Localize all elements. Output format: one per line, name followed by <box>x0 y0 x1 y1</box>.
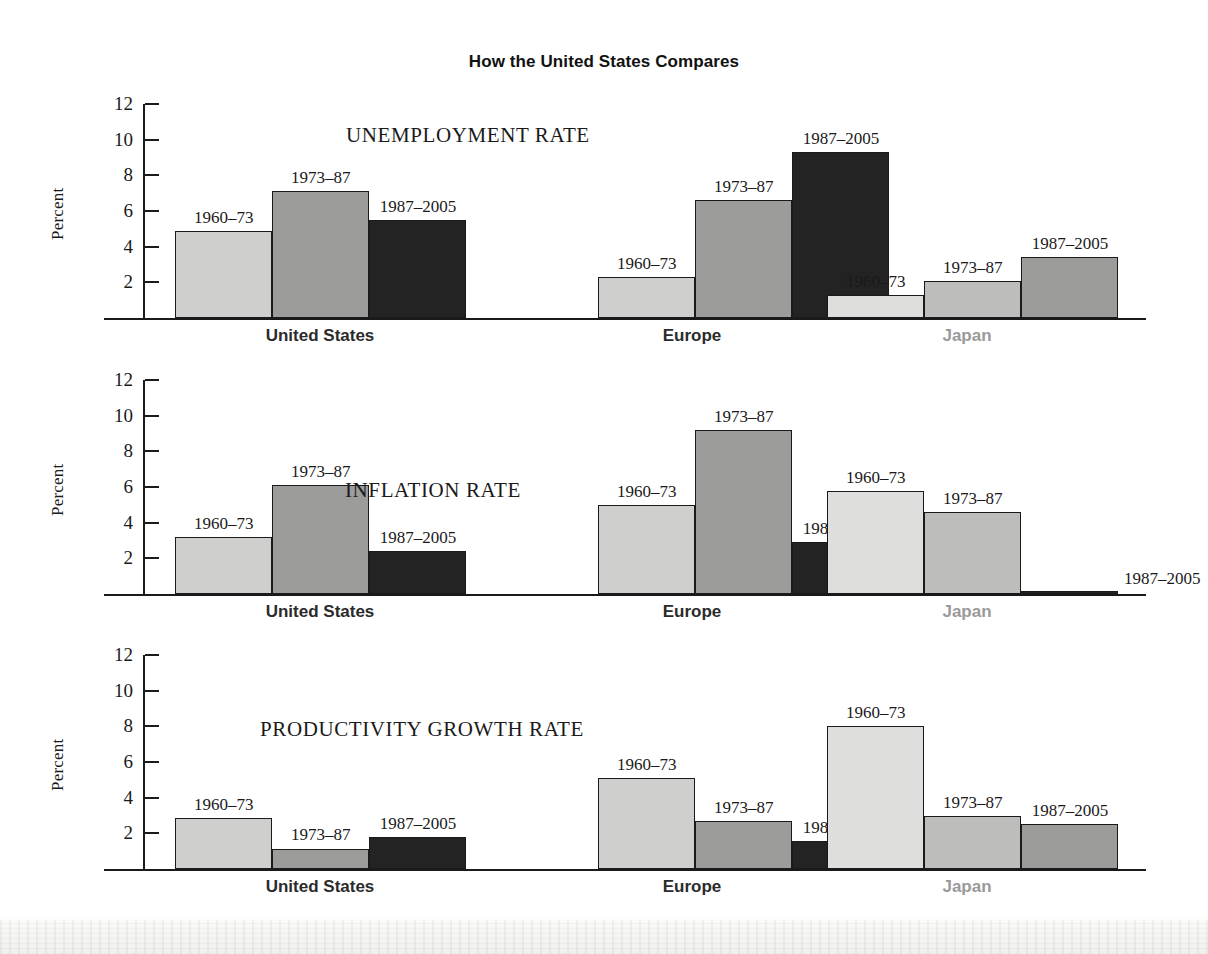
bar-label-unemployment-europe-1: 1973–87 <box>714 178 774 195</box>
bar-label-productivity-japan-0: 1960–73 <box>846 704 906 721</box>
bar-label-inflation-united-states-0: 1960–73 <box>194 515 254 532</box>
bar-label-inflation-europe-0: 1960–73 <box>617 483 677 500</box>
panel-unemployment: Percent 12108642 1960–731973–871987–2005… <box>0 90 1208 358</box>
group-label-europe: Europe <box>663 602 722 622</box>
bar-label-productivity-united-states-1: 1973–87 <box>291 826 351 843</box>
group-label-japan: Japan <box>942 602 991 622</box>
bar-productivity-europe-0 <box>598 778 695 869</box>
bar-unemployment-japan-1 <box>924 281 1021 318</box>
bar-inflation-europe-1 <box>695 430 792 594</box>
plot-area-unemployment: 1960–731973–871987–20051960–731973–87198… <box>0 90 1208 320</box>
bar-label-unemployment-united-states-0: 1960–73 <box>194 209 254 226</box>
panel-title-productivity: PRODUCTIVITY GROWTH RATE <box>260 717 584 742</box>
bar-inflation-europe-0 <box>598 505 695 594</box>
bar-label-unemployment-japan-1: 1973–87 <box>943 259 1003 276</box>
group-label-japan: Japan <box>942 326 991 346</box>
group-label-united-states: United States <box>266 877 375 897</box>
bar-inflation-japan-1 <box>924 512 1021 594</box>
bar-productivity-japan-1 <box>924 816 1021 870</box>
group-label-united-states: United States <box>266 326 375 346</box>
bar-label-inflation-europe-1: 1973–87 <box>714 408 774 425</box>
bar-label-unemployment-japan-0: 1960–73 <box>846 273 906 290</box>
bar-label-productivity-united-states-2: 1987–2005 <box>380 815 457 832</box>
bar-label-productivity-europe-0: 1960–73 <box>617 756 677 773</box>
plot-area-inflation: 1960–731973–871987–20051960–731973–87198… <box>0 366 1208 596</box>
figure-page: How the United States Compares Percent 1… <box>0 0 1208 954</box>
group-label-europe: Europe <box>663 326 722 346</box>
bar-inflation-united-states-0 <box>175 537 272 594</box>
bar-inflation-japan-0 <box>827 491 924 594</box>
bar-unemployment-japan-0 <box>827 295 924 318</box>
bar-productivity-japan-0 <box>827 726 924 869</box>
bar-unemployment-europe-2 <box>792 152 889 318</box>
bar-unemployment-united-states-0 <box>175 231 272 318</box>
figure-title: How the United States Compares <box>0 52 1208 72</box>
bar-productivity-united-states-1 <box>272 849 369 870</box>
panel-inflation: Percent 12108642 1960–731973–871987–2005… <box>0 366 1208 634</box>
bar-label-inflation-japan-0: 1960–73 <box>846 469 906 486</box>
bar-unemployment-united-states-2 <box>369 220 466 318</box>
scan-texture-speckle <box>0 920 1208 954</box>
bar-label-unemployment-japan-2: 1987–2005 <box>1032 235 1109 252</box>
bar-inflation-japan-2 <box>1021 591 1118 594</box>
bar-label-productivity-united-states-0: 1960–73 <box>194 796 254 813</box>
bar-label-inflation-japan-1: 1973–87 <box>943 490 1003 507</box>
bar-label-productivity-europe-1: 1973–87 <box>714 799 774 816</box>
bar-unemployment-japan-2 <box>1021 257 1118 318</box>
group-label-japan: Japan <box>942 877 991 897</box>
bar-unemployment-europe-0 <box>598 277 695 318</box>
bar-label-unemployment-united-states-1: 1973–87 <box>291 169 351 186</box>
bar-label-inflation-united-states-1: 1973–87 <box>291 463 351 480</box>
bar-label-productivity-japan-1: 1973–87 <box>943 794 1003 811</box>
panel-title-inflation: INFLATION RATE <box>345 478 521 503</box>
group-label-united-states: United States <box>266 602 375 622</box>
bar-unemployment-europe-1 <box>695 200 792 318</box>
bar-label-inflation-united-states-2: 1987–2005 <box>380 529 457 546</box>
group-label-europe: Europe <box>663 877 722 897</box>
bar-inflation-united-states-2 <box>369 551 466 594</box>
bar-label-unemployment-europe-0: 1960–73 <box>617 255 677 272</box>
panel-productivity: Percent 12108642 1960–731973–871987–2005… <box>0 641 1208 909</box>
bar-label-unemployment-europe-2: 1987–2005 <box>803 130 880 147</box>
bar-unemployment-united-states-1 <box>272 191 369 318</box>
bar-productivity-europe-1 <box>695 821 792 869</box>
bar-productivity-united-states-0 <box>175 818 272 869</box>
bar-productivity-united-states-2 <box>369 837 466 869</box>
bar-label-inflation-japan-2: 1987–2005 <box>1124 570 1201 587</box>
bar-label-unemployment-united-states-2: 1987–2005 <box>380 198 457 215</box>
plot-area-productivity: 1960–731973–871987–20051960–731973–87198… <box>0 641 1208 871</box>
bar-productivity-japan-2 <box>1021 824 1118 869</box>
bar-label-productivity-japan-2: 1987–2005 <box>1032 802 1109 819</box>
panel-title-unemployment: UNEMPLOYMENT RATE <box>346 123 590 148</box>
